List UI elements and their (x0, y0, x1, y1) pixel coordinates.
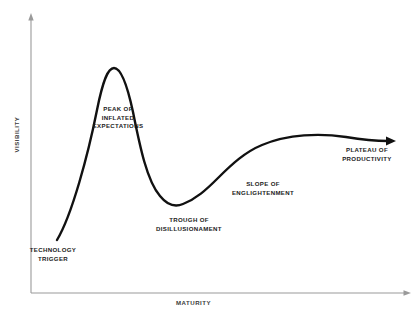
y-axis-label: VISIBILITY (13, 139, 20, 153)
curve-arrowhead (386, 137, 396, 146)
label-plateau-of-productivity: PLATEAU OF PRODUCTIVITY (330, 146, 404, 163)
label-peak-of-inflated-expectations: PEAK OF INFLATED EXPECTATIONS (86, 105, 150, 131)
hype-cycle-figure: VISIBILITY MATURITY TECHNOLOGY TRIGGER P… (0, 0, 419, 322)
label-slope-of-englightenment: SLOPE OF ENGLIGHTENMENT (222, 180, 304, 197)
label-trough-of-disillusionament: TROUGH OF DISILLUSIONAMENT (142, 216, 236, 233)
y-axis-arrowhead (28, 13, 33, 21)
label-technology-trigger: TECHNOLOGY TRIGGER (20, 246, 86, 263)
x-axis-label: MATURITY (176, 299, 211, 306)
x-axis-arrowhead (404, 290, 412, 295)
